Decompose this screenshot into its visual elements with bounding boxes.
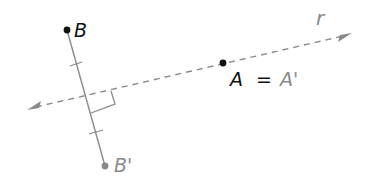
arrowhead-right-icon [338,33,352,42]
point-b [64,27,71,34]
line-r [27,33,352,110]
reflection-diagram: B B' r A = A' [0,0,376,177]
label-r: r [316,6,326,30]
label-a-prime: A' [278,68,298,90]
right-angle-marker [91,91,115,113]
label-b-prime: B' [114,154,132,176]
arrowhead-left-icon [27,101,41,110]
label-a: A [228,68,243,90]
label-equals: = [256,68,272,90]
point-a [220,60,227,67]
label-b: B [74,19,87,41]
point-b-prime [102,163,109,170]
